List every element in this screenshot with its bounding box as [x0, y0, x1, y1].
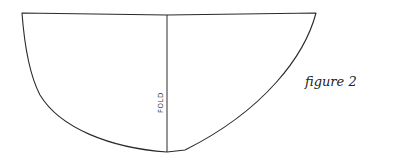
pattern-diagram: FOLD figure 2	[0, 0, 394, 161]
figure-caption: figure 2	[304, 74, 357, 89]
fold-label: FOLD	[157, 92, 165, 113]
pattern-outline	[22, 13, 316, 152]
